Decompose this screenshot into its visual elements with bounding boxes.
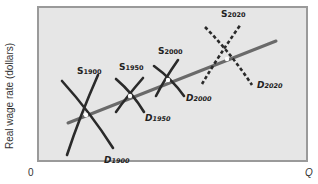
x-axis-label: Q: [305, 167, 313, 178]
curve-label-year: 1950: [125, 64, 143, 72]
curve-label-s1900: S1900: [77, 66, 102, 76]
curve-label-s2000: S2000: [158, 46, 183, 56]
equilibrium-point-2020: [225, 57, 229, 61]
y-axis-label: Real wage rate (dollars): [4, 43, 15, 149]
curve-label-d1950: D1950: [145, 113, 171, 123]
curve-label-d1900: D1900: [104, 155, 130, 165]
equilibrium-point-1900: [84, 113, 88, 117]
curve-label-year: 1950: [152, 115, 170, 123]
curve-label-year: 2000: [193, 95, 211, 103]
curve-label-d2000: D2000: [186, 93, 212, 103]
curve-label-year: 2020: [227, 11, 245, 19]
curve-label-year: 1900: [111, 157, 129, 165]
curve-label-year: 2020: [264, 82, 282, 90]
curve-label-year: 2000: [164, 48, 182, 56]
curve-label-year: 1900: [83, 68, 101, 76]
chart-canvas: [0, 0, 318, 184]
curve-label-s1950: S1950: [119, 62, 144, 72]
equilibrium-point-1950: [128, 94, 132, 98]
curve-label-d2020: D2020: [257, 80, 283, 90]
curve-label-s2020: S2020: [221, 9, 246, 19]
equilibrium-point-2000: [166, 78, 170, 82]
x-axis-origin-label: 0: [28, 167, 34, 178]
